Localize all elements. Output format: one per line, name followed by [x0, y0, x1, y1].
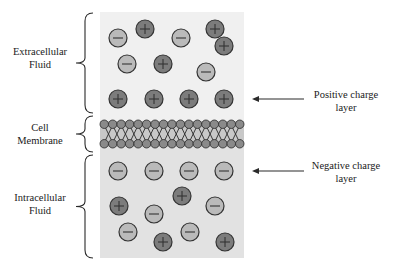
phospholipid-head	[151, 120, 159, 128]
negative-ion-icon	[215, 162, 233, 180]
positive-ion-icon	[206, 20, 224, 38]
positive-charge-layer-label: Positive charge layer	[296, 88, 396, 114]
negative-ion-icon	[172, 29, 190, 47]
phospholipid-head	[125, 120, 133, 128]
phospholipid-head	[100, 140, 108, 148]
negative-charge-layer-label: Negative charge layer	[296, 159, 396, 185]
label-line: Negative charge	[296, 159, 396, 172]
positive-ion-icon	[216, 233, 234, 251]
phospholipid-head	[142, 120, 150, 128]
negative-ion-icon	[180, 162, 198, 180]
label-line: layer	[296, 172, 396, 185]
extracellular-fluid-label: Extracellular Fluid	[0, 45, 80, 71]
phospholipid-head	[117, 120, 125, 128]
phospholipid-head	[168, 140, 176, 148]
phospholipid-head	[108, 120, 116, 128]
negative-ion-icon	[109, 29, 127, 47]
negative-ion-icon	[206, 197, 224, 215]
phospholipid-head	[134, 120, 142, 128]
negative-ion-icon	[181, 223, 199, 241]
phospholipid-head	[202, 120, 210, 128]
label-line: layer	[296, 101, 396, 114]
phospholipid-head	[100, 120, 108, 128]
phospholipid-head	[219, 120, 227, 128]
positive-ion-icon	[110, 197, 128, 215]
phospholipid-head	[134, 140, 142, 148]
phospholipid-head	[159, 120, 167, 128]
phospholipid-head	[219, 140, 227, 148]
label-line: Extracellular	[0, 45, 80, 58]
cell-membrane-bilayer	[100, 120, 244, 148]
positive-ion-icon	[136, 20, 154, 38]
positive-ion-icon	[109, 90, 127, 108]
cell-membrane-label: Cell Membrane	[0, 121, 80, 147]
phospholipid-head	[176, 140, 184, 148]
phospholipid-head	[202, 140, 210, 148]
phospholipid-head	[210, 120, 218, 128]
positive-ion-icon	[145, 90, 163, 108]
negative-ion-icon	[145, 205, 163, 223]
phospholipid-head	[117, 140, 125, 148]
phospholipid-head	[236, 120, 244, 128]
positive-ion-icon	[173, 187, 191, 205]
negative-ion-icon	[197, 63, 215, 81]
negative-ion-icon	[118, 55, 136, 73]
phospholipid-head	[168, 120, 176, 128]
label-line: Cell	[0, 121, 80, 134]
intracellular-fluid-label: Intracellular Fluid	[0, 191, 80, 217]
positive-ion-icon	[215, 90, 233, 108]
label-line: Fluid	[0, 204, 80, 217]
positive-ion-icon	[154, 233, 172, 251]
label-line: Intracellular	[0, 191, 80, 204]
phospholipid-head	[227, 140, 235, 148]
positive-ion-icon	[215, 37, 233, 55]
negative-ion-icon	[109, 162, 127, 180]
phospholipid-head	[185, 140, 193, 148]
positive-ion-icon	[180, 90, 198, 108]
arrow-head-icon	[252, 168, 259, 174]
phospholipid-head	[227, 120, 235, 128]
label-line: Positive charge	[296, 88, 396, 101]
negative-ion-icon	[119, 223, 137, 241]
phospholipid-head	[151, 140, 159, 148]
phospholipid-head	[159, 140, 167, 148]
phospholipid-head	[176, 120, 184, 128]
negative-ion-icon	[145, 162, 163, 180]
phospholipid-head	[142, 140, 150, 148]
membrane-potential-diagram: Extracellular Fluid Cell Membrane Intrac…	[0, 0, 396, 275]
phospholipid-head	[236, 140, 244, 148]
positive-ion-icon	[154, 55, 172, 73]
label-line: Membrane	[0, 134, 80, 147]
phospholipid-head	[210, 140, 218, 148]
label-line: Fluid	[0, 58, 80, 71]
phospholipid-head	[193, 120, 201, 128]
arrow-head-icon	[252, 96, 259, 102]
phospholipid-head	[108, 140, 116, 148]
phospholipid-head	[185, 120, 193, 128]
phospholipid-head	[193, 140, 201, 148]
phospholipid-head	[125, 140, 133, 148]
